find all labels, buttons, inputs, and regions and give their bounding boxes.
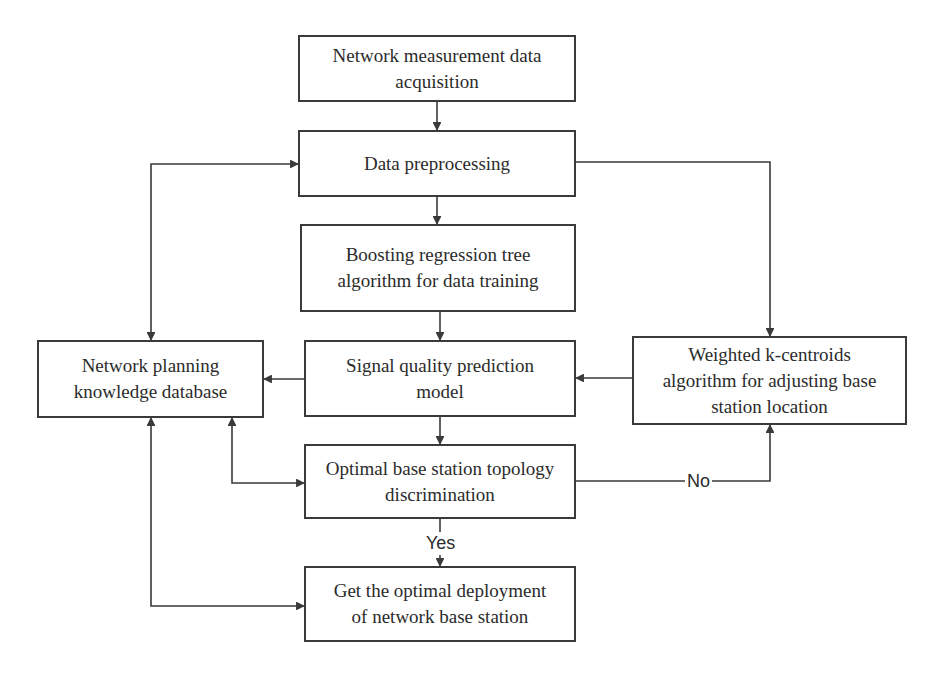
edge-knowledge-db-preprocessing xyxy=(151,164,298,340)
node-optimal-deployment: Get the optimal deployment of network ba… xyxy=(304,566,576,642)
node-boosting-regression-line1: Boosting regression tree xyxy=(337,242,538,268)
node-knowledge-database-line1: Network planning xyxy=(74,353,228,379)
node-optimal-deployment-line1: Get the optimal deployment xyxy=(334,578,547,604)
node-data-acquisition-line1: Network measurement data xyxy=(333,43,542,69)
node-data-preprocessing-label: Data preprocessing xyxy=(364,151,510,177)
flowchart-canvas: Network measurement data acquisition Dat… xyxy=(0,0,942,674)
node-weighted-k-centroids-line2: algorithm for adjusting base xyxy=(663,368,877,394)
node-knowledge-database-line2: knowledge database xyxy=(74,379,228,405)
node-data-acquisition: Network measurement data acquisition xyxy=(298,35,576,102)
edge-knowledge-db-deployment xyxy=(151,418,304,606)
node-data-preprocessing: Data preprocessing xyxy=(298,130,576,197)
node-signal-quality-prediction-line2: model xyxy=(346,379,534,405)
node-topology-discrimination-line2: discrimination xyxy=(326,482,555,508)
node-data-acquisition-line2: acquisition xyxy=(333,69,542,95)
node-weighted-k-centroids-line1: Weighted k-centroids xyxy=(663,342,877,368)
edge-label-yes: Yes xyxy=(424,533,457,553)
node-topology-discrimination: Optimal base station topology discrimina… xyxy=(304,444,576,519)
edge-preprocessing-to-kcentroids xyxy=(576,162,770,336)
edge-discrimination-to-kcentroids xyxy=(576,425,770,481)
node-boosting-regression-line2: algorithm for data training xyxy=(337,268,538,294)
node-optimal-deployment-line2: of network base station xyxy=(334,604,547,630)
node-weighted-k-centroids: Weighted k-centroids algorithm for adjus… xyxy=(632,336,907,425)
node-boosting-regression: Boosting regression tree algorithm for d… xyxy=(300,224,576,312)
node-knowledge-database: Network planning knowledge database xyxy=(37,340,264,418)
node-signal-quality-prediction-line1: Signal quality prediction xyxy=(346,353,534,379)
edge-knowledge-db-discrimination xyxy=(232,418,304,483)
edge-label-no: No xyxy=(685,471,712,491)
node-weighted-k-centroids-line3: station location xyxy=(663,394,877,420)
node-signal-quality-prediction: Signal quality prediction model xyxy=(304,340,576,417)
node-topology-discrimination-line1: Optimal base station topology xyxy=(326,456,555,482)
